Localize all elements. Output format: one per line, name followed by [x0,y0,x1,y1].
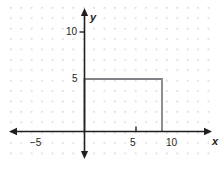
y-axis [80,8,89,159]
coordinate-plane-figure: y x 10 5 −5 5 10 [0,0,224,169]
x-tick-label-5: 5 [130,138,136,148]
y-tick-label-10: 10 [66,27,77,37]
x-axis-label: x [212,136,218,147]
x-tick-label-10: 10 [166,138,177,148]
y-axis-label: y [90,12,96,23]
curve-step-function [85,79,163,131]
x-tick-label-negative-5: −5 [30,138,41,148]
y-tick-label-5: 5 [72,74,78,84]
x-axis [9,127,212,136]
